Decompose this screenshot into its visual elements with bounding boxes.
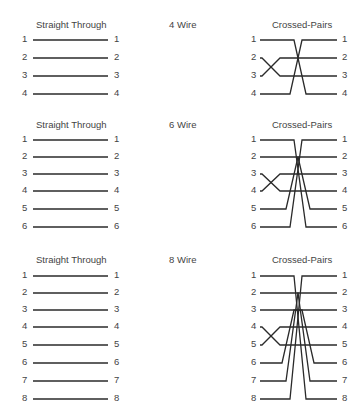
wiring-diagram bbox=[0, 0, 363, 417]
crossed-wire bbox=[260, 327, 337, 345]
